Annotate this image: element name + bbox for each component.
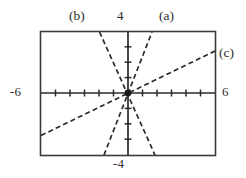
graph-figure: 4 -4 -6 6 (a) (b) (c) xyxy=(0,0,246,178)
plot-canvas xyxy=(0,0,246,178)
y-max-label: 4 xyxy=(117,8,124,24)
curve-c-label: (c) xyxy=(219,45,234,61)
x-min-label: -6 xyxy=(10,84,21,100)
x-max-label: 6 xyxy=(222,84,229,100)
curve-b-label: (b) xyxy=(69,8,85,24)
curve-a-label: (a) xyxy=(159,8,174,24)
origin-marker xyxy=(125,90,132,97)
y-min-label: -4 xyxy=(113,156,124,172)
